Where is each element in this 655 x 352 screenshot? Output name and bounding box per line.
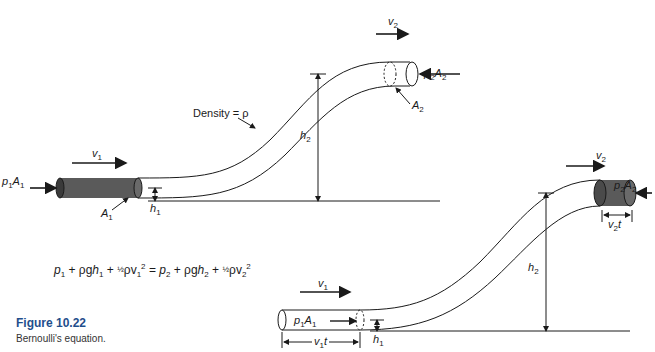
top-label-p1A1: p1A1	[2, 176, 24, 190]
top-label-A2: A2	[412, 100, 424, 114]
top-label-p2A2: p2A2	[424, 68, 446, 82]
density-pointer	[238, 118, 255, 128]
bottom-clear-segment	[278, 310, 364, 330]
bottom-label-v1t: v1t	[312, 336, 329, 350]
bottom-label-h2: h2	[528, 262, 539, 276]
A2-pointer	[396, 88, 410, 104]
top-shaded-fluid-segment	[56, 178, 142, 198]
top-label-h1: h1	[150, 203, 161, 217]
top-pipe	[138, 62, 410, 198]
density-label: Density = ρ	[193, 108, 248, 119]
top-label-v1: v1	[92, 148, 102, 162]
top-label-h2: h2	[300, 130, 311, 144]
top-label-A1: A1	[101, 208, 113, 222]
bottom-label-p1A1: p1A1	[294, 315, 316, 329]
figure-title: Figure 10.22	[16, 316, 86, 330]
bernoulli-equation: p1 + ρgh1 + ½ρv12 = p2 + ρgh2 + ½ρv22	[54, 262, 251, 279]
A1-pointer	[112, 198, 128, 210]
figure-caption: Bernoulli's equation.	[16, 333, 106, 344]
top-right-cylinder	[384, 62, 418, 86]
bottom-label-h1: h1	[373, 334, 384, 348]
top-label-v2: v2	[388, 16, 398, 30]
bernoulli-diagram-graphics	[0, 0, 655, 352]
bottom-pipe	[282, 180, 600, 330]
bottom-label-p2A2: p2A2	[614, 180, 636, 194]
bottom-label-v2t: v2t	[608, 219, 621, 233]
bottom-label-v1: v1	[318, 278, 328, 292]
bottom-label-v2: v2	[596, 150, 606, 164]
